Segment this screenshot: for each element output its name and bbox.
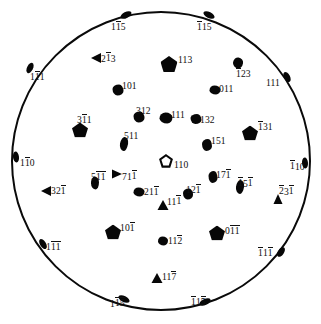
pole-label: 115 xyxy=(110,298,125,308)
pole-label: 110 xyxy=(20,157,35,167)
pole-label: 111 xyxy=(30,71,45,81)
pole-label: 511 xyxy=(124,131,138,141)
stereographic-projection-figure: 1151152131131231111010111113121111323111… xyxy=(0,0,321,324)
pole-label: 151 xyxy=(211,136,226,146)
pole-label: 211 xyxy=(144,186,159,196)
pole-label: 312 xyxy=(136,106,151,116)
pole-label: 117 xyxy=(162,271,176,281)
pole-label: 111 xyxy=(258,247,273,257)
pole-marker xyxy=(91,53,101,63)
pole-label: 115 xyxy=(191,296,206,306)
pole-marker xyxy=(158,237,168,246)
pole-label: 131 xyxy=(258,121,273,131)
pole-label: 111 xyxy=(46,241,61,251)
pole-label: 511 xyxy=(91,171,106,181)
pole-label: 231 xyxy=(279,186,294,196)
pole-label: 171 xyxy=(216,169,231,179)
pole-marker xyxy=(112,170,122,179)
pole-marker xyxy=(41,186,51,196)
pole-label: 113 xyxy=(178,55,192,65)
pole-label: 112 xyxy=(168,235,182,245)
pole-label: 011 xyxy=(225,225,240,235)
pole-label: 121 xyxy=(186,184,201,194)
pole-label: 151 xyxy=(238,178,253,188)
pole-label: 115 xyxy=(197,21,212,31)
pole-label: 321 xyxy=(51,185,66,195)
pole-label: 111 xyxy=(266,78,280,88)
pole-label: 213 xyxy=(101,53,116,63)
pole-label: 115 xyxy=(111,21,126,31)
pole-label: 123 xyxy=(236,68,251,78)
pole-label: 311 xyxy=(77,114,92,124)
pole-label: 101 xyxy=(122,81,137,91)
pole-label: 132 xyxy=(200,115,215,125)
pole-label: 101 xyxy=(120,222,135,232)
pole-label: 011 xyxy=(219,84,233,94)
pole-label: 110 xyxy=(174,160,188,170)
pole-label: 111 xyxy=(167,196,181,206)
pole-label: 110 xyxy=(290,161,305,171)
pole-label: 111 xyxy=(171,110,185,120)
pole-marker xyxy=(134,188,145,197)
pole-marker xyxy=(152,273,163,283)
pole-label: 711 xyxy=(122,171,137,181)
pole-marker xyxy=(160,155,172,167)
